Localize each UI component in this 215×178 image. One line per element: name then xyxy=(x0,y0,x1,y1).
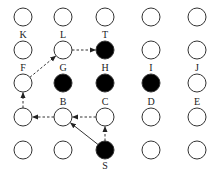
node-K-empty xyxy=(14,41,32,59)
node-r0c1-empty xyxy=(54,8,72,26)
node-r4c4-empty xyxy=(188,141,206,159)
node-r4c3-empty xyxy=(142,141,160,159)
node-label-T: T xyxy=(102,29,108,40)
node-r4c0-empty xyxy=(14,141,32,159)
node-T-filled xyxy=(96,41,114,59)
node-C-empty xyxy=(96,108,114,126)
grid-path-diagram: KLTFGHIJBCDES xyxy=(0,0,215,178)
node-label-D: D xyxy=(147,96,154,107)
node-r0c4-empty xyxy=(188,8,206,26)
node-label-S: S xyxy=(102,160,108,171)
node-label-J: J xyxy=(195,62,199,73)
node-label-B: B xyxy=(60,96,67,107)
node-r1c4-empty xyxy=(188,41,206,59)
nodes-layer xyxy=(14,8,206,159)
node-r1c3-empty xyxy=(142,41,160,59)
node-D-empty xyxy=(142,108,160,126)
node-label-I: I xyxy=(149,62,152,73)
node-I-filled xyxy=(142,74,160,92)
node-label-H: H xyxy=(101,62,108,73)
node-S-filled xyxy=(96,141,114,159)
node-r0c2-empty xyxy=(96,8,114,26)
node-L-empty xyxy=(54,41,72,59)
node-r0c3-empty xyxy=(142,8,160,26)
node-H-filled xyxy=(96,74,114,92)
node-E-empty xyxy=(188,108,206,126)
node-r3c0-empty xyxy=(14,108,32,126)
node-label-G: G xyxy=(59,62,66,73)
node-B-empty xyxy=(54,108,72,126)
node-r4c1-empty xyxy=(54,141,72,159)
node-G-filled xyxy=(54,74,72,92)
node-label-F: F xyxy=(20,62,26,73)
node-label-K: K xyxy=(19,29,27,40)
node-label-E: E xyxy=(194,96,200,107)
node-label-L: L xyxy=(60,29,66,40)
edge-F-to-L xyxy=(30,56,56,77)
node-r0c0-empty xyxy=(14,8,32,26)
node-label-C: C xyxy=(102,96,109,107)
edge-S-to-B xyxy=(70,123,97,145)
node-F-empty xyxy=(14,74,32,92)
node-J-empty xyxy=(188,74,206,92)
